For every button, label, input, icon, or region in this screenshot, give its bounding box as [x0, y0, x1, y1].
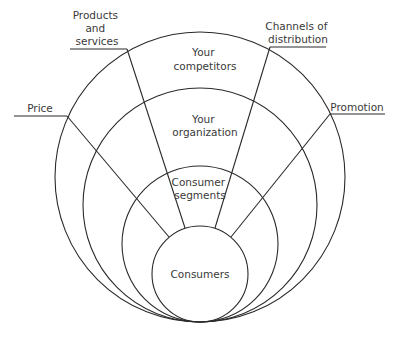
spoke-promotion	[231, 114, 385, 237]
label-consumers: Consumers	[170, 268, 229, 280]
label-organization: Your organization	[172, 113, 237, 138]
label-competitors: Your competitors	[174, 46, 237, 72]
spoke-products	[70, 49, 185, 228]
label-products: Products and services	[73, 9, 122, 47]
label-consumer-segments: Consumer segments	[172, 176, 229, 201]
label-price: Price	[27, 102, 53, 114]
spoke-price	[14, 116, 169, 237]
label-channels: Channels of distribution	[265, 20, 330, 45]
label-promotion: Promotion	[330, 101, 383, 113]
marketing-diagram: Products and services Price Channels of …	[0, 0, 399, 337]
